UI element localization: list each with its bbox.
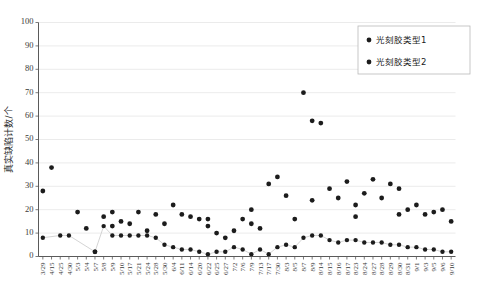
y-tick-label: 60 <box>25 110 34 120</box>
x-tick-label: 8/29 <box>387 262 395 275</box>
data-point-series1 <box>371 177 376 182</box>
data-point-series1 <box>284 193 289 198</box>
data-point-series1 <box>397 186 402 191</box>
x-tick-label: 5/24 <box>144 262 152 275</box>
data-point-series2 <box>406 245 410 249</box>
data-point-series2 <box>197 250 201 254</box>
data-point-series2 <box>180 247 184 251</box>
x-tick-label: 6/22 <box>205 262 213 275</box>
x-tick-label: 7/6 <box>239 262 247 271</box>
data-point-series1 <box>414 203 419 208</box>
y-tick-label: 90 <box>25 40 34 50</box>
x-tick-label: 5/28 <box>152 262 160 275</box>
data-point-series1 <box>249 221 254 226</box>
chart-canvas: 0102030405060708090100 3/294/154/254/305… <box>0 0 477 294</box>
scatter-chart: 0102030405060708090100 3/294/154/254/305… <box>0 0 477 294</box>
data-point-series1 <box>249 207 254 212</box>
x-tick-label: 7/9 <box>248 262 256 271</box>
data-point-series2 <box>188 247 192 251</box>
data-point-series1 <box>153 212 158 217</box>
data-point-series1 <box>101 214 106 219</box>
data-point-series1 <box>388 182 393 187</box>
data-point-series2 <box>284 243 288 247</box>
x-tick-label: 6/4 <box>170 262 178 271</box>
data-point-series1 <box>136 210 141 215</box>
y-tick-label: 0 <box>29 250 33 260</box>
x-tick-label: 9/6 <box>439 262 447 271</box>
data-point-series2 <box>293 245 297 249</box>
data-point-series2 <box>362 240 366 244</box>
data-point-series2 <box>232 245 236 249</box>
y-tick-label: 40 <box>25 157 34 167</box>
x-tick-label: 8/9 <box>309 262 317 271</box>
data-point-series1 <box>423 212 428 217</box>
x-tick-label: 8/28 <box>378 262 386 275</box>
data-point-series2 <box>336 240 340 244</box>
x-tick-label: 8/23 <box>352 262 360 275</box>
data-point-series1 <box>214 231 219 236</box>
data-point-series1 <box>327 186 332 191</box>
data-point-series2 <box>440 250 444 254</box>
data-point-series1 <box>431 210 436 215</box>
data-point-series1 <box>119 219 124 224</box>
data-point-series1 <box>258 226 263 231</box>
data-point-series1 <box>397 212 402 217</box>
data-point-series1 <box>318 121 323 126</box>
x-tick-label: 7/17 <box>265 262 273 275</box>
data-point-series1 <box>110 224 115 229</box>
data-point-series2 <box>267 252 271 256</box>
data-point-series1 <box>310 198 315 203</box>
data-point-series1 <box>188 214 193 219</box>
x-tick-label: 6/25 <box>213 262 221 275</box>
x-tick-label: 7/2 <box>231 262 239 271</box>
x-tick-label: 8/3 <box>283 262 291 271</box>
x-tick-label: 5/4 <box>83 262 91 271</box>
x-tick-label: 8/27 <box>370 262 378 275</box>
y-tick-label: 10 <box>25 227 34 237</box>
x-tick-label: 5/3 <box>74 262 82 271</box>
x-tick-label: 4/15 <box>48 262 56 275</box>
data-point-series2 <box>101 224 105 228</box>
data-point-series2 <box>58 233 62 237</box>
data-point-series1 <box>162 221 167 226</box>
x-tick-label: 5/30 <box>161 262 169 275</box>
data-point-series2 <box>154 236 158 240</box>
x-tick-label: 8/24 <box>361 262 369 275</box>
series2-trend-line <box>43 226 451 254</box>
x-tick-label: 8/15 <box>326 262 334 275</box>
data-point-series2 <box>319 233 323 237</box>
data-point-series2 <box>206 252 210 256</box>
data-point-series1 <box>206 224 211 229</box>
legend-label-1: 光刻胶类型2 <box>376 57 426 67</box>
data-point-series2 <box>449 250 453 254</box>
chart-legend: 光刻胶类型1 光刻胶类型2 <box>358 26 470 74</box>
data-point-series2 <box>145 233 149 237</box>
data-point-series2 <box>41 236 45 240</box>
x-tick-label: 8/14 <box>317 262 325 275</box>
legend-marker-1 <box>367 60 372 65</box>
data-point-series2 <box>414 245 418 249</box>
y-tick-label: 30 <box>25 180 34 190</box>
data-point-series1 <box>93 249 98 254</box>
y-axis-ticks: 0102030405060708090100 <box>21 16 39 260</box>
data-point-series2 <box>223 250 227 254</box>
y-tick-label: 50 <box>25 133 34 143</box>
x-tick-label: 4/25 <box>57 262 65 275</box>
x-tick-label: 4/30 <box>66 262 74 275</box>
data-point-series1 <box>179 212 184 217</box>
x-tick-label: 5/10 <box>118 262 126 275</box>
data-point-series1 <box>275 175 280 180</box>
data-point-series1 <box>449 219 454 224</box>
x-axis-ticks: 3/294/154/254/305/35/45/75/85/95/105/175… <box>39 257 455 275</box>
legend-box <box>358 26 470 74</box>
data-point-series2 <box>379 240 383 244</box>
data-point-series1 <box>440 207 445 212</box>
x-tick-label: 8/7 <box>300 262 308 271</box>
x-tick-label: 9/5 <box>430 262 438 271</box>
x-tick-label: 5/21 <box>135 262 143 275</box>
data-point-series1 <box>353 214 358 219</box>
y-tick-label: 70 <box>25 87 34 97</box>
data-point-series2 <box>310 233 314 237</box>
data-point-series2 <box>119 233 123 237</box>
data-point-series2 <box>249 252 253 256</box>
